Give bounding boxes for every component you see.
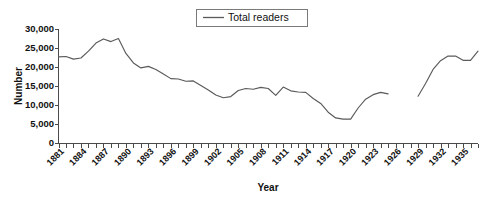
x-tick-label-1929: 1929 xyxy=(404,146,425,167)
x-tick-label-1908: 1908 xyxy=(247,146,268,167)
x-tick-label-1899: 1899 xyxy=(179,146,200,167)
y-tick-label-30000: 30,000 xyxy=(25,23,54,34)
data-line-total-readers xyxy=(59,39,479,120)
chart-legend: Total readers xyxy=(196,9,307,26)
y-tick-label-10000: 10,000 xyxy=(25,99,54,110)
x-tick-label-1917: 1917 xyxy=(314,146,335,167)
y-tick-label-15000: 15,000 xyxy=(25,80,54,91)
x-tick-label-1923: 1923 xyxy=(359,146,380,167)
y-axis-title: Number xyxy=(13,67,24,105)
x-axis-ticks xyxy=(60,144,479,148)
x-tick-label-1920: 1920 xyxy=(337,146,358,167)
x-axis-title: Year xyxy=(257,182,278,193)
y-tick-label-20000: 20,000 xyxy=(25,61,54,72)
x-tick-label-1926: 1926 xyxy=(382,146,403,167)
y-tick-label-0: 0 xyxy=(49,137,54,148)
x-tick-label-1881: 1881 xyxy=(45,146,66,167)
x-tick-label-1935: 1935 xyxy=(449,146,470,167)
x-tick-label-1890: 1890 xyxy=(112,146,133,167)
x-tick-label-1914: 1914 xyxy=(292,146,313,167)
x-tick-label-1911: 1911 xyxy=(270,146,291,167)
y-axis-tick-labels: 30,000 25,000 20,000 15,000 10,000 5,000… xyxy=(25,23,54,148)
y-tick-label-25000: 25,000 xyxy=(25,42,54,53)
x-axis xyxy=(59,144,479,148)
legend-label-total-readers: Total readers xyxy=(228,11,289,23)
x-tick-label-1884: 1884 xyxy=(67,146,88,167)
x-tick-label-1932: 1932 xyxy=(427,146,448,167)
x-tick-label-1893: 1893 xyxy=(135,146,156,167)
x-tick-label-1902: 1902 xyxy=(202,146,223,167)
chart-container: Total readers 30,000 25,000 20,000 15,00… xyxy=(0,0,489,202)
x-axis-tick-labels: 1881188418871890189318961899190219051908… xyxy=(45,146,471,167)
series-total-readers xyxy=(59,39,479,120)
x-tick-label-1896: 1896 xyxy=(157,146,178,167)
x-tick-label-1905: 1905 xyxy=(224,146,245,167)
line-chart: Total readers 30,000 25,000 20,000 15,00… xyxy=(0,0,489,202)
y-axis xyxy=(55,29,59,144)
x-tick-label-1887: 1887 xyxy=(90,146,111,167)
y-tick-label-5000: 5,000 xyxy=(30,118,54,129)
y-axis-ticks xyxy=(55,30,59,144)
